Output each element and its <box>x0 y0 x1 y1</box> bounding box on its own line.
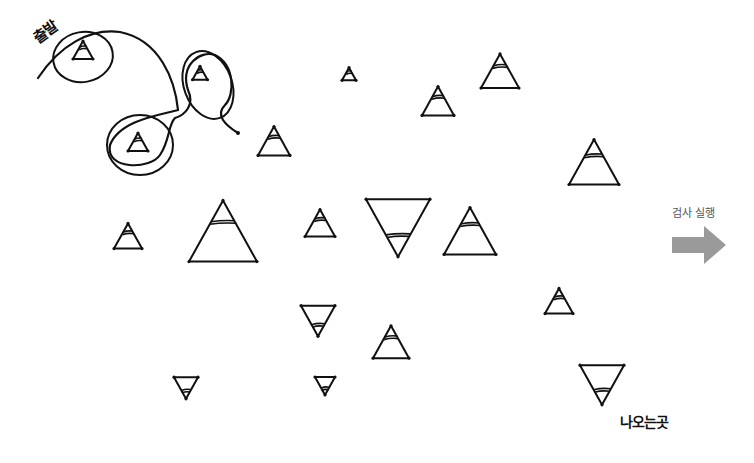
triangle-marker-down <box>299 304 336 338</box>
triangle-marker-down <box>578 364 625 407</box>
loop-circle <box>49 27 117 87</box>
triangle-marker-down <box>172 376 199 401</box>
triangle-marker-up <box>371 324 410 360</box>
triangle-marker-up <box>126 131 149 152</box>
maze-diagram <box>0 0 754 463</box>
triangle-marker-up <box>567 138 620 186</box>
exit-label: 나오는곳 <box>620 411 668 431</box>
route-end-dot <box>236 131 240 135</box>
right-arrow-icon <box>672 226 726 264</box>
triangle-marker-up <box>191 65 209 82</box>
triangle-marker-up <box>256 125 291 157</box>
run-check-label: 검사 실행 <box>672 204 716 220</box>
triangle-marker-down <box>364 198 431 259</box>
triangle-marker-up <box>543 287 574 315</box>
triangle-marker-up <box>420 85 455 117</box>
triangle-marker-up <box>112 222 143 250</box>
triangle-marker-up <box>187 199 258 263</box>
run-check-button[interactable] <box>672 224 726 266</box>
triangle-marker-up <box>340 66 357 82</box>
triangle-marker-up <box>303 208 336 238</box>
triangle-marker-down <box>313 375 336 396</box>
triangle-marker-up <box>442 206 497 256</box>
loop-circle <box>107 115 173 175</box>
triangle-marker-up <box>479 52 520 89</box>
